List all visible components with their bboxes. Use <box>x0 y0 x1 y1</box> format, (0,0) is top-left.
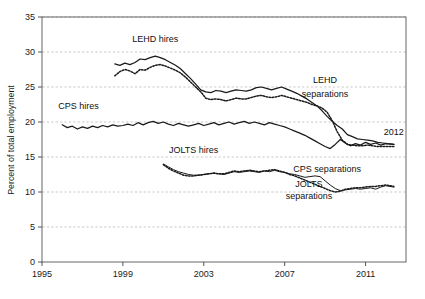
x-tick-label: 2011 <box>356 269 375 279</box>
x-axis-ticks: 19951999200320072011 <box>32 262 375 279</box>
y-tick-label: 25 <box>25 82 35 92</box>
annotation-label: separations <box>302 89 349 99</box>
svg-text:Percent of total employment: Percent of total employment <box>6 85 16 195</box>
annotation-label: CPS separations <box>293 164 361 174</box>
x-tick-label: 2003 <box>194 269 214 279</box>
x-tick-label: 1995 <box>32 269 52 279</box>
plot-background <box>42 17 406 262</box>
y-tick-label: 15 <box>25 152 35 162</box>
annotation-label: JOLTS <box>295 179 322 189</box>
y-tick-label: 35 <box>25 12 35 22</box>
annotation-label: CPS hires <box>58 101 99 111</box>
y-tick-label: 0 <box>30 257 35 267</box>
y-tick-label: 5 <box>30 222 35 232</box>
annotation-label: JOLTS hires <box>169 145 219 155</box>
chart-container: 05101520253035 19951999200320072011 LEHD… <box>0 0 425 299</box>
annotation-label: separations <box>286 191 333 201</box>
annotation-label: LEHD hires <box>132 34 179 44</box>
x-tick-label: 1999 <box>113 269 133 279</box>
annotation-label: LEHD <box>313 75 338 85</box>
y-tick-label: 10 <box>25 187 35 197</box>
annotation-label: 2012 <box>384 127 404 137</box>
y-axis-title: Percent of total employment <box>6 85 16 195</box>
y-tick-label: 30 <box>25 47 35 57</box>
y-axis-ticks: 05101520253035 <box>25 12 42 267</box>
y-tick-label: 20 <box>25 117 35 127</box>
employment-flows-line-chart: 05101520253035 19951999200320072011 LEHD… <box>0 0 425 299</box>
x-tick-label: 2007 <box>275 269 295 279</box>
